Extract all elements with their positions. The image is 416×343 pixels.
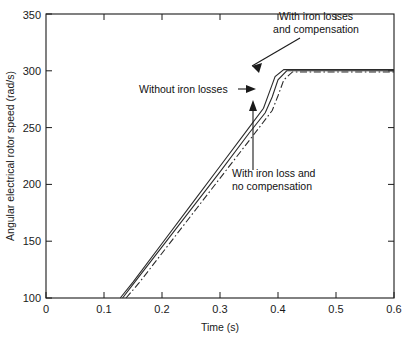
annot-nocomp-line1: With iron loss and xyxy=(232,167,316,179)
y-axis-title: Angular electrical rotor speed (rad/s) xyxy=(4,71,16,241)
y-tick-label-350: 350 xyxy=(23,9,41,21)
y-tick-label-250: 250 xyxy=(23,122,41,134)
chart-svg: 100 150 200 250 300 350 0 0.1 0.2 0.3 0.… xyxy=(0,0,416,343)
annot-nocomp-line2: no compensation xyxy=(232,180,312,192)
x-tick-label-0.1: 0.1 xyxy=(96,303,111,315)
x-tick-label-0.6: 0.6 xyxy=(386,303,401,315)
annot-without-line1: Without iron losses xyxy=(139,83,228,95)
annot-compensation-line2: and compensation xyxy=(273,23,359,35)
x-tick-label-0: 0 xyxy=(43,303,49,315)
x-tick-label-0.3: 0.3 xyxy=(212,303,227,315)
x-axis-title: Time (s) xyxy=(201,321,239,333)
annot-compensation-line1: With iron losses xyxy=(279,10,353,22)
y-tick-label-150: 150 xyxy=(23,235,41,247)
y-tick-label-100: 100 xyxy=(23,292,41,304)
y-tick-label-300: 300 xyxy=(23,65,41,77)
chart-figure: 100 150 200 250 300 350 0 0.1 0.2 0.3 0.… xyxy=(0,0,416,343)
y-tick-label-200: 200 xyxy=(23,178,41,190)
x-tick-label-0.2: 0.2 xyxy=(154,303,169,315)
x-tick-label-0.5: 0.5 xyxy=(328,303,343,315)
x-tick-label-0.4: 0.4 xyxy=(270,303,285,315)
chart-background xyxy=(0,0,416,343)
